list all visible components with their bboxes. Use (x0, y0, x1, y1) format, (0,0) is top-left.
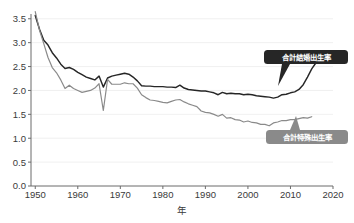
x-tick-label-1950: 1950 (25, 189, 46, 200)
y-tick-label-2.0: 2.0 (13, 85, 26, 96)
y-tick-label-0.5: 0.5 (13, 157, 26, 168)
x-tick-label-1980: 1980 (152, 189, 173, 200)
x-tick-label-2010: 2010 (280, 189, 301, 200)
y-tick-label-3.0: 3.0 (13, 37, 26, 48)
x-tick-label-1970: 1970 (110, 189, 131, 200)
y-tick-label-1.0: 1.0 (13, 133, 26, 144)
x-tick-label-2020: 2020 (322, 189, 343, 200)
callout-tfr-tail (290, 116, 300, 130)
y-tick-label-1.5: 1.5 (13, 109, 26, 120)
x-axis-title: 年 (177, 205, 187, 216)
callout-tfr-label: 合計特殊出生率 (282, 133, 333, 142)
chart-svg: 0.00.51.01.52.02.53.03.5 195019601970198… (0, 0, 354, 223)
fertility-rate-chart: 0.00.51.01.52.02.53.03.5 195019601970198… (0, 0, 354, 223)
x-tick-label-2000: 2000 (237, 189, 258, 200)
callout-tfr: 合計特殊出生率 (266, 116, 348, 144)
x-axis-tick-labels: 19501960197019801990200020102020 (25, 189, 344, 200)
callout-marital-label: 合計結婚出生率 (281, 53, 332, 62)
series-line-total-fertility (35, 12, 311, 126)
y-tick-label-2.5: 2.5 (13, 61, 26, 72)
x-tick-label-1990: 1990 (195, 189, 216, 200)
callout-marital-tail (278, 64, 290, 86)
axis-tick-marks (28, 19, 333, 189)
y-axis-tick-labels: 0.00.51.01.52.02.53.03.5 (13, 13, 26, 191)
y-tick-label-3.5: 3.5 (13, 13, 26, 24)
x-tick-label-1960: 1960 (67, 189, 88, 200)
series-group (35, 12, 316, 126)
